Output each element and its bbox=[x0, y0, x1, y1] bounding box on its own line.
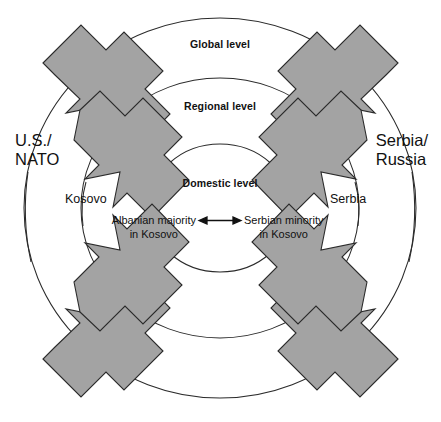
actor-label-serbia: Serbia bbox=[330, 192, 366, 206]
actor-label-serbia-russia: Serbia/ Russia bbox=[376, 131, 428, 169]
domestic-party-left: Albanian majority in Kosovo bbox=[112, 214, 196, 242]
ring-label-domestic: Domestic level bbox=[183, 178, 258, 190]
domestic-party-right: Serbian minority in Kosovo bbox=[244, 214, 323, 242]
actor-label-serbia-russia-line2: Russia bbox=[376, 150, 428, 169]
leader-line-us-nato bbox=[25, 172, 31, 262]
actor-label-us-nato-line2: NATO bbox=[15, 150, 59, 169]
leader-line-serbia-russia bbox=[409, 172, 415, 262]
ring-label-regional: Regional level bbox=[184, 101, 256, 113]
domestic-party-right-line1: Serbian minority bbox=[244, 214, 323, 228]
pressure-arrow-group-top-right bbox=[252, 25, 398, 218]
ring-label-global: Global level bbox=[190, 39, 250, 51]
actor-label-serbia-russia-line1: Serbia/ bbox=[376, 131, 428, 150]
domestic-relation-arrow bbox=[199, 217, 241, 224]
domestic-party-left-line1: Albanian majority bbox=[112, 214, 196, 228]
actor-label-us-nato-line1: U.S./ bbox=[15, 131, 59, 150]
actor-label-kosovo: Kosovo bbox=[65, 192, 107, 206]
domestic-party-right-line2: in Kosovo bbox=[244, 228, 323, 242]
actor-label-us-nato: U.S./ NATO bbox=[15, 131, 59, 169]
diagram-canvas: Global level Regional level Domestic lev… bbox=[0, 0, 441, 422]
domestic-party-left-line2: in Kosovo bbox=[112, 228, 196, 242]
diagram-svg bbox=[0, 0, 441, 422]
pressure-arrow-group-top-left bbox=[43, 25, 189, 218]
